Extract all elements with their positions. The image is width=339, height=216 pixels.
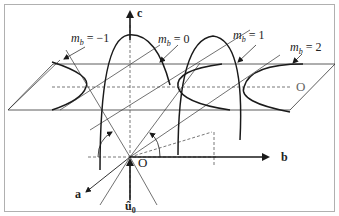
- axis-label-b: b: [281, 150, 288, 165]
- dashed-guides: [52, 25, 292, 206]
- angle-arcs: [98, 132, 160, 157]
- origin-label: O: [138, 155, 147, 171]
- axis-label-a: a: [75, 187, 81, 202]
- curve-label-m-2: mb = 2: [290, 40, 321, 56]
- curve-label-m-neg1: mb = −1: [71, 31, 109, 47]
- cone-lines: [8, 30, 280, 205]
- axis-label-c: c: [137, 6, 142, 21]
- curve-label-m-0: mb = 0: [158, 32, 189, 48]
- curve-label-m-1: mb = 1: [233, 28, 264, 44]
- hyperbolas: [52, 35, 303, 170]
- axis-label-u0: û0: [125, 199, 136, 215]
- plane-origin-label: O: [296, 79, 305, 95]
